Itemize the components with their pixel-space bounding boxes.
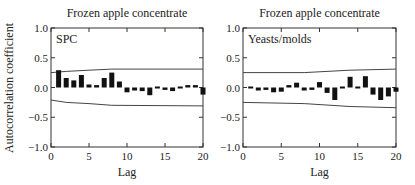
y-tick-label: −0.5	[220, 111, 240, 123]
acf-bar	[79, 75, 84, 88]
acf-bar	[363, 76, 368, 87]
y-tick-label: 0.0	[226, 82, 240, 94]
x-tick-label: 0	[240, 150, 246, 162]
series-annotation: SPC	[56, 32, 77, 46]
acf-bar	[87, 85, 92, 88]
acf-bar	[263, 88, 268, 90]
acf-bar	[256, 88, 261, 91]
acf-bar	[94, 85, 99, 87]
acf-bar	[178, 87, 183, 89]
y-tick-label: −1.0	[28, 141, 48, 153]
acf-bar	[102, 78, 107, 88]
x-tick-label: 10	[122, 150, 134, 162]
acf-bar	[348, 77, 353, 88]
acf-bar	[71, 80, 76, 87]
confidence-lower-line	[243, 102, 396, 107]
x-axis-label: Lag	[310, 165, 329, 179]
acf-bar	[332, 88, 337, 101]
acf-bar	[394, 88, 399, 92]
x-tick-label: 15	[160, 150, 172, 162]
acf-bar	[163, 88, 168, 90]
acf-bar	[132, 88, 137, 91]
acf-bar	[56, 70, 61, 87]
acf-bar	[140, 88, 145, 92]
y-axis-label: Autocorrelation coefficient	[2, 22, 16, 153]
x-tick-label: 20	[198, 150, 210, 162]
acf-bar	[286, 85, 291, 87]
acf-bar	[279, 88, 284, 92]
acf-bar	[64, 78, 69, 88]
acf-bar	[371, 88, 376, 95]
confidence-lower-line	[51, 100, 203, 106]
acf-bar	[109, 73, 114, 88]
acf-charts: Autocorrelation coefficient Frozen apple…	[0, 0, 415, 185]
x-tick-label: 0	[48, 150, 54, 162]
confidence-upper-line	[51, 69, 203, 73]
acf-bar	[386, 88, 391, 97]
acf-bar	[378, 88, 383, 101]
acf-bar	[309, 88, 314, 90]
x-tick-label: 20	[391, 150, 403, 162]
y-tick-label: −0.5	[28, 111, 48, 123]
plot-yeasts-molds: Frozen apple concentrateYeasts/molds−1.0…	[220, 6, 402, 179]
x-tick-label: 15	[352, 150, 364, 162]
acf-bar	[340, 87, 345, 89]
acf-bar	[170, 88, 175, 92]
acf-bar	[271, 88, 276, 93]
acf-bar	[317, 82, 322, 87]
acf-bar	[147, 88, 152, 96]
y-tick-label: 0.5	[34, 52, 48, 64]
acf-bar	[155, 87, 160, 89]
acf-bar	[201, 88, 206, 95]
acf-bar	[294, 83, 299, 88]
y-tick-label: 0.5	[226, 52, 240, 64]
chart-title: Frozen apple concentrate	[67, 6, 188, 20]
acf-bar	[355, 87, 360, 89]
y-tick-label: −1.0	[220, 141, 240, 153]
series-annotation: Yeasts/molds	[248, 32, 312, 46]
plot-spc: Frozen apple concentrateSPC−1.0−0.50.00.…	[28, 6, 209, 179]
y-tick-label: 1.0	[226, 22, 240, 34]
x-tick-label: 5	[279, 150, 285, 162]
chart-title: Frozen apple concentrate	[259, 6, 380, 20]
acf-bar	[325, 88, 330, 93]
acf-bar	[185, 85, 190, 87]
y-tick-label: 1.0	[34, 22, 48, 34]
acf-bar	[248, 87, 253, 89]
confidence-upper-line	[243, 69, 396, 73]
acf-bar	[302, 88, 307, 91]
acf-bar	[125, 88, 130, 93]
x-axis-label: Lag	[118, 165, 137, 179]
x-tick-label: 10	[314, 150, 326, 162]
acf-bar	[193, 85, 198, 87]
acf-bar	[117, 82, 122, 88]
y-tick-label: 0.0	[34, 82, 48, 94]
x-tick-label: 5	[86, 150, 92, 162]
